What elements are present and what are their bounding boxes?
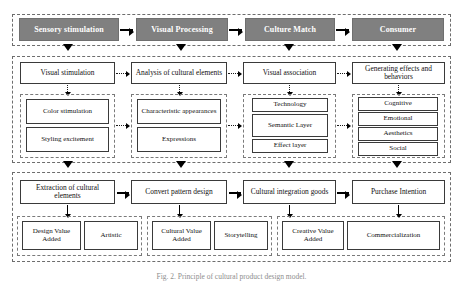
value-child-design-value-added[interactable]: Design Value Added	[22, 221, 81, 250]
figure-caption: Fig. 2. Principle of cultural product de…	[0, 272, 463, 281]
analysis-child-characteristic-appearances[interactable]: Characteristic appearances	[137, 99, 221, 124]
analysis-child-expressions[interactable]: Expressions	[137, 127, 221, 152]
arrow-cultural-elements-to-children	[179, 85, 180, 92]
connector-triangle-col1	[63, 44, 73, 51]
connector-triangle-bottom-col4	[392, 161, 402, 168]
arrow-children-1-to-2	[116, 125, 128, 126]
value-main-purchase-intention[interactable]: Purchase Intention	[352, 180, 445, 204]
analysis-child-emotional[interactable]: Emotional	[358, 112, 438, 126]
analysis-child-cognitive[interactable]: Cognitive	[358, 97, 438, 111]
stage-box-culture-match[interactable]: Culture Match	[245, 18, 335, 41]
cultural-product-design-diagram: Sensory stimulation Visual Processing Cu…	[0, 0, 463, 282]
arrow-generating-effects-to-children	[398, 85, 399, 92]
analysis-child-technology[interactable]: Technology	[252, 98, 328, 112]
value-main-convert-pattern-design[interactable]: Convert pattern design	[131, 180, 227, 204]
arrow-cultural-integration-to-children	[289, 205, 290, 214]
analysis-main-analysis-of-cultural-elements[interactable]: Analysis of cultural elements	[131, 62, 227, 84]
connector-triangle-bottom-col3	[284, 161, 294, 168]
arrow-value-3-to-4	[337, 192, 349, 194]
connector-triangle-bottom-col2	[176, 161, 186, 168]
stage-box-sensory-stimulation[interactable]: Sensory stimulation	[19, 18, 119, 41]
analysis-child-color-stimulation[interactable]: Color stimulation	[26, 99, 109, 124]
analysis-child-social[interactable]: Social	[358, 142, 438, 156]
connector-triangle-col2	[176, 44, 186, 51]
arrow-value-2-to-3	[229, 192, 241, 194]
value-main-cultural-integration-goods[interactable]: Cultural integration goods	[243, 180, 336, 204]
arrow-purchase-intention-down	[398, 205, 399, 214]
analysis-child-effect-layer[interactable]: Effect layer	[252, 139, 328, 153]
stage-box-visual-processing[interactable]: Visual Processing	[136, 18, 228, 41]
value-child-commercialization[interactable]: Commercialization	[347, 221, 440, 250]
value-child-creative-value-added[interactable]: Creative Value Added	[282, 221, 344, 250]
analysis-child-aesthetics[interactable]: Aesthetics	[358, 127, 438, 141]
analysis-main-visual-association[interactable]: Visual association	[243, 62, 336, 84]
arrow-main-2-to-3	[228, 73, 240, 74]
value-child-artistic[interactable]: Artistic	[84, 221, 138, 250]
analysis-main-generating-effects-and-behaviors[interactable]: Generating effects and behaviors	[352, 62, 445, 84]
value-main-extraction-of-cultural-elements[interactable]: Extraction of cultural elements	[20, 180, 115, 204]
arrow-children-2-to-3	[228, 125, 240, 126]
connector-triangle-col3	[284, 44, 294, 51]
arrow-culture-to-consumer	[336, 29, 349, 31]
connector-triangle-bottom-col1	[63, 161, 73, 168]
analysis-child-semantic-layer[interactable]: Semantic Layer	[252, 114, 328, 137]
analysis-main-visual-stimulation[interactable]: Visual stimulation	[20, 62, 115, 84]
arrow-convert-pattern-to-children	[179, 205, 180, 214]
arrow-visual-association-to-children	[289, 85, 290, 92]
arrow-visual-to-culture	[229, 29, 242, 31]
arrow-main-1-to-2	[116, 73, 128, 74]
arrow-children-3-to-4	[337, 125, 349, 126]
connector-triangle-col4	[392, 44, 402, 51]
arrow-value-1-to-2	[117, 192, 129, 194]
arrow-sensory-to-visual	[120, 29, 133, 31]
value-child-storytelling[interactable]: Storytelling	[214, 221, 268, 250]
analysis-child-styling-excitement[interactable]: Styling excitement	[26, 127, 109, 152]
arrow-visual-stimulation-to-children	[67, 85, 68, 92]
arrow-extraction-to-children	[67, 205, 68, 214]
arrow-main-3-to-4	[337, 73, 349, 74]
value-child-cultural-value-added[interactable]: Cultural Value Added	[152, 221, 211, 250]
stage-box-consumer[interactable]: Consumer	[352, 18, 444, 41]
